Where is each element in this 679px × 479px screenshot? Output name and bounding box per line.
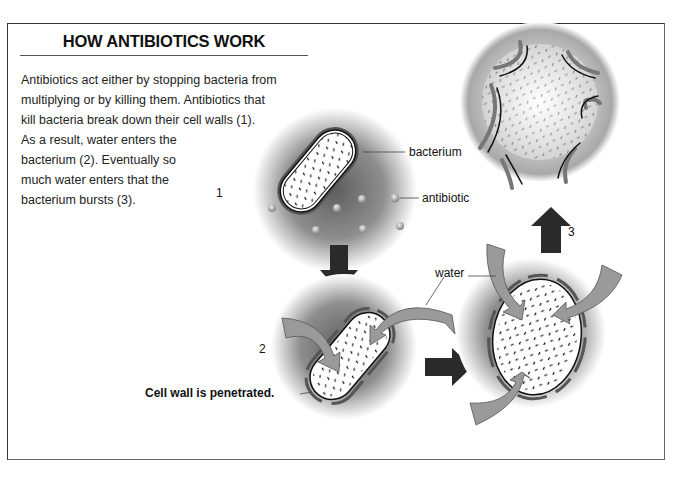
stage-number-2: 2 xyxy=(259,342,266,356)
stage-number-1: 1 xyxy=(216,186,223,200)
cell-wall-label: Cell wall is penetrated. xyxy=(145,386,274,400)
bacterium-label: bacterium xyxy=(409,145,462,159)
antibiotics-diagram xyxy=(0,0,679,479)
stage-4-burst-group xyxy=(460,22,620,188)
antibiotic-label: antibiotic xyxy=(422,191,469,205)
water-label: water xyxy=(435,266,464,280)
stage-2-bacterium-group xyxy=(271,274,455,420)
arrow-up-icon xyxy=(531,207,571,253)
stage-3-swelling-group xyxy=(456,244,622,425)
stage-number-3: 3 xyxy=(568,225,575,239)
water-leader-line xyxy=(426,277,444,305)
